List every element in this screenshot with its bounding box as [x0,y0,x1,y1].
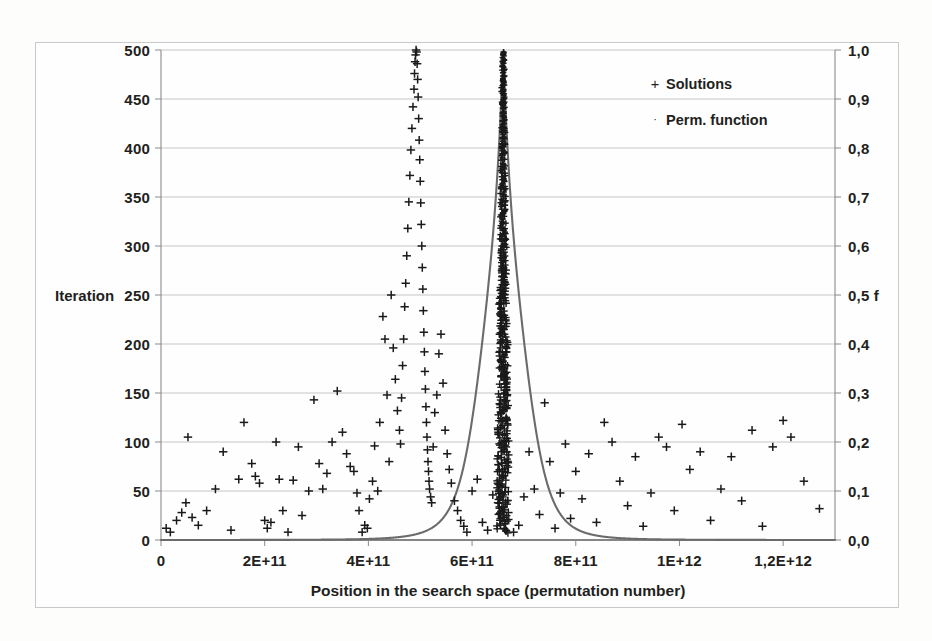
y2-tick-label: 0,6 [848,238,869,255]
legend-item-perm-function: · Perm. function [648,112,768,128]
y2-tick-label: 0,4 [848,336,869,353]
y-axis-title: Iteration [55,287,114,304]
legend-label-solutions: Solutions [666,76,732,92]
y-tick-label: 500 [95,42,150,59]
y-tick-label: 300 [95,238,150,255]
y2-tick-label: 0,1 [848,483,869,500]
y2-tick-label: 0,9 [848,91,869,108]
x-tick-label: 2E+11 [243,552,287,569]
x-tick-label: 0 [157,552,166,569]
chart-page: 050100150200250300350400450500 0,00,10,2… [0,0,932,641]
x-tick-label: 1E+12 [657,552,702,569]
y-tick-label: 100 [95,434,150,451]
y2-tick-label: 0,5 f [848,287,879,304]
x-tick-label: 8E+11 [554,552,598,569]
x-tick-label: 1,2E+12 [754,552,812,569]
x-axis-title: Position in the search space (permutatio… [311,582,686,600]
left-axis-ticks [155,50,161,540]
y-tick-label: 400 [95,140,150,157]
y2-tick-label: 1,0 [848,42,869,59]
legend-item-solutions: + Solutions [648,76,732,92]
y-tick-label: 350 [95,189,150,206]
y-tick-label: 200 [95,336,150,353]
y-tick-label: 50 [95,483,150,500]
y-tick-label: 450 [95,91,150,108]
y2-tick-label: 0,0 [848,532,869,549]
y2-tick-label: 0,8 [848,140,869,157]
y2-tick-label: 0,3 [848,385,869,402]
legend-label-perm-function: Perm. function [666,112,768,128]
legend-marker-plus-icon: + [648,76,662,92]
y2-tick-label: 0,2 [848,434,869,451]
y-tick-label: 0 [95,532,150,549]
x-tick-label: 6E+11 [450,552,494,569]
y-tick-label: 150 [95,385,150,402]
y2-tick-label: 0,7 [848,189,869,206]
right-axis-ticks [835,50,841,540]
x-tick-label: 4E+11 [346,552,390,569]
legend-marker-dot-icon: · [648,113,662,125]
